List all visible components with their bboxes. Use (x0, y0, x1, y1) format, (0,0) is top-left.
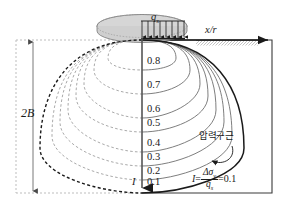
ground-surface-hatch (196, 41, 262, 46)
contour-label-4: 0.4 (147, 137, 160, 148)
contour-label-6: 0.2 (147, 165, 160, 176)
equation-value: 0.1 (224, 173, 237, 184)
dashed-reference-box (16, 40, 142, 193)
contour-label-5: 0.3 (147, 151, 160, 162)
contour-label-0: 0.8 (147, 55, 160, 66)
x-axis-label: x/r (205, 24, 217, 35)
contour-label-2: 0.6 (147, 103, 160, 114)
equation-fraction: Δσvqs (201, 168, 218, 192)
contour-label-3: 0.5 (147, 117, 160, 128)
pressure-bulb-annotation: 압력구근 (199, 128, 234, 142)
pressure-bulb-figure: qs x/r 2B 0.8 0.7 0.6 0.5 0.4 0.3 0.2 0.… (0, 0, 285, 209)
contour-label-7: 0.1 (147, 176, 160, 187)
equation-denominator: qs (201, 180, 218, 191)
figure-canvas (0, 0, 285, 209)
load-label: qs (151, 11, 159, 24)
influence-equation: I=Δσvqs=0.1 (192, 168, 236, 192)
influence-factor-symbol: I (132, 176, 136, 187)
contour-lines-left (52, 40, 142, 180)
depth-dimension-label: 2B (21, 106, 34, 121)
contour-label-1: 0.7 (147, 79, 160, 90)
